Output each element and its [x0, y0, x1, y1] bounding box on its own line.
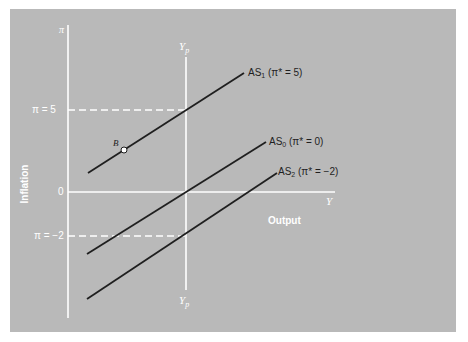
output-axis-title: Output: [268, 216, 301, 226]
yp-label-top: Yp: [179, 41, 189, 55]
point-b-label: B: [113, 139, 119, 148]
pi-axis-symbol: π: [59, 25, 64, 35]
tick-zero: 0: [58, 187, 64, 197]
tick-pi5: π = 5: [32, 105, 56, 115]
figure: π Y Yp Yp π = 5 0 π = −2 Inflation Outpu…: [0, 0, 468, 342]
yp-label-bottom: Yp: [179, 295, 189, 309]
as2-label: AS2 (π* = −2): [278, 167, 338, 178]
inflation-axis-title: Inflation: [19, 165, 30, 204]
y-axis-symbol: Y: [326, 196, 332, 207]
chart-plot: [0, 0, 468, 342]
point-b-marker: [121, 147, 127, 153]
as1-label: AS1 (π* = 5): [248, 68, 302, 79]
as0-label: AS0 (π* = 0): [269, 137, 323, 148]
as1-curve: [88, 73, 244, 173]
tick-pim2: π = −2: [34, 231, 64, 241]
